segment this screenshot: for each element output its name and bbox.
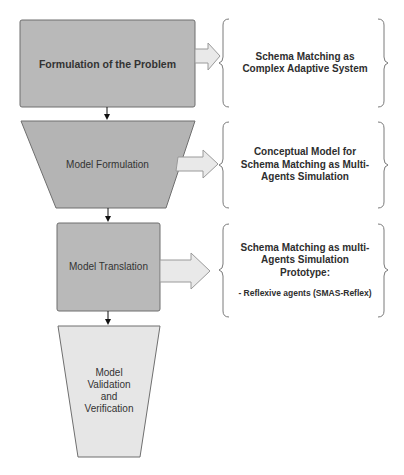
description-formulation-of-problem: Schema Matching as Complex Adaptive Syst… [236, 19, 374, 107]
description-title: Schema Matching as multi-Agents Simulati… [236, 242, 374, 280]
stage-label-model-validation: Model Validation and Verification [80, 360, 138, 422]
description-title: Schema Matching as Complex Adaptive Syst… [236, 51, 374, 76]
block-arrow-1 [195, 43, 220, 70]
left-brace-1 [219, 19, 229, 107]
left-brace-3 [219, 224, 229, 317]
description-subitem: - Reflexive agents (SMAS-Reflex) [238, 287, 371, 300]
left-brace-2 [219, 122, 229, 208]
block-arrow-3 [160, 253, 210, 289]
stage-label-formulation-of-problem: Formulation of the Problem [20, 20, 195, 107]
right-brace-2 [378, 122, 388, 208]
description-model-formulation: Conceptual Model for Schema Matching as … [236, 122, 374, 208]
right-brace-1 [378, 19, 388, 107]
stage-label-model-formulation: Model Formulation [30, 121, 185, 208]
description-model-translation: Schema Matching as multi-Agents Simulati… [236, 224, 374, 317]
right-brace-3 [378, 224, 388, 317]
description-title: Conceptual Model for Schema Matching as … [236, 146, 374, 184]
stage-label-model-translation: Model Translation [57, 223, 160, 311]
